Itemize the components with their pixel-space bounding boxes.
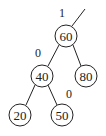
edge-40-50 xyxy=(48,85,57,105)
tree-node-20: 20 xyxy=(9,104,31,126)
parent-edge-stub xyxy=(72,9,85,26)
tree-node-40: 40 xyxy=(31,65,53,87)
edge-40-20 xyxy=(26,85,35,105)
balance-label-40: 0 xyxy=(35,46,41,60)
node-value: 20 xyxy=(14,108,27,123)
node-value: 40 xyxy=(36,69,49,84)
edge-60-80 xyxy=(73,45,81,66)
node-value: 80 xyxy=(80,69,93,84)
edge-60-40 xyxy=(48,45,59,66)
node-value: 50 xyxy=(56,108,69,123)
tree-diagram: 60 40 80 20 50 1 0 0 xyxy=(0,0,106,136)
node-value: 60 xyxy=(60,29,73,44)
tree-node-60: 60 xyxy=(55,25,77,47)
tree-node-80: 80 xyxy=(75,65,97,87)
balance-label-50: 0 xyxy=(66,87,72,101)
tree-node-50: 50 xyxy=(51,104,73,126)
balance-label-60: 1 xyxy=(59,6,65,20)
